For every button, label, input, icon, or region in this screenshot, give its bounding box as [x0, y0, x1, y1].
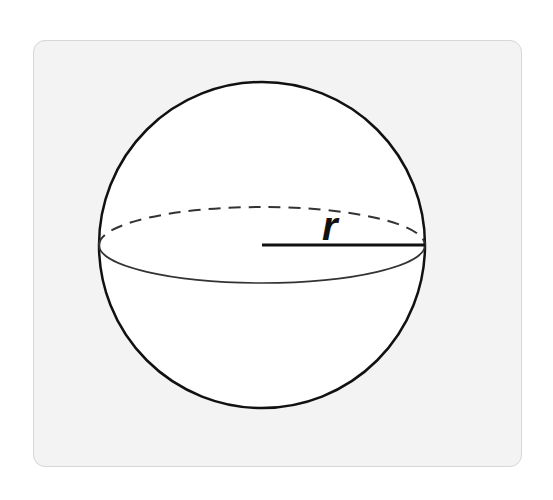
sphere-diagram: r — [0, 0, 553, 500]
radius-label: r — [322, 204, 340, 248]
